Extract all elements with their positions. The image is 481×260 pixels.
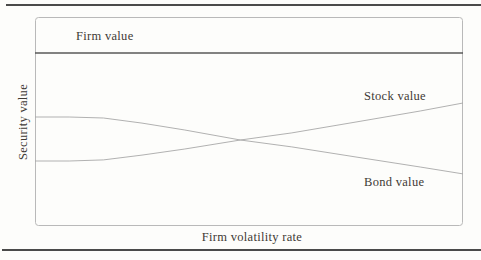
bond-value-line <box>35 117 463 174</box>
x-axis-label: Firm volatility rate <box>202 231 302 245</box>
stock-value-line <box>35 103 463 161</box>
y-axis-label: Security value <box>17 84 31 160</box>
bond-value-label: Bond value <box>364 176 424 190</box>
stock-value-label: Stock value <box>364 90 426 104</box>
firm-value-label: Firm value <box>76 30 134 44</box>
plot-area-border <box>36 18 463 226</box>
figure: Firm value Stock value Bond value Securi… <box>0 0 481 260</box>
chart-canvas <box>0 0 481 260</box>
bottom-rule <box>2 249 481 251</box>
